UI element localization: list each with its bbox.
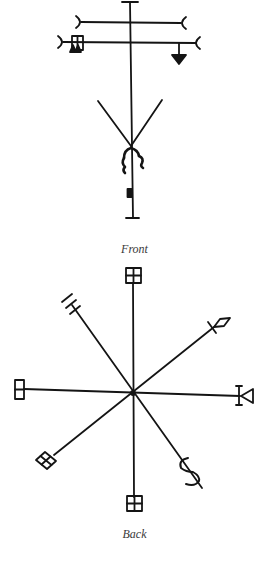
front-v-left (98, 101, 131, 146)
lattice-glyph-icon (36, 452, 56, 469)
box-glyph-icon (70, 36, 83, 52)
front-v-right (131, 100, 162, 146)
block-glyph-icon (128, 189, 132, 197)
back-caption: Back (0, 527, 269, 542)
front-caption: Front (0, 242, 269, 257)
front-stave (58, 2, 200, 218)
diamond-glyph-icon (208, 318, 230, 333)
crescent-left-1-icon (76, 16, 80, 28)
bell-glyph-icon (236, 386, 253, 405)
back-sigil (15, 268, 253, 511)
front-main-stem (130, 2, 133, 218)
top-box-glyph-icon (126, 268, 141, 283)
illustration: Front Back (0, 0, 269, 564)
front-crossbar-1 (81, 22, 181, 23)
center-dot (131, 391, 135, 395)
crescent-right-2-icon (196, 37, 200, 49)
crescent-right-1-icon (182, 17, 186, 29)
bottom-box-glyph-icon (127, 496, 142, 511)
left-box-glyph-icon (15, 380, 24, 399)
down-arrow-icon (172, 43, 186, 64)
crescent-left-2-icon (58, 36, 62, 48)
sigil-drawings (0, 0, 269, 564)
